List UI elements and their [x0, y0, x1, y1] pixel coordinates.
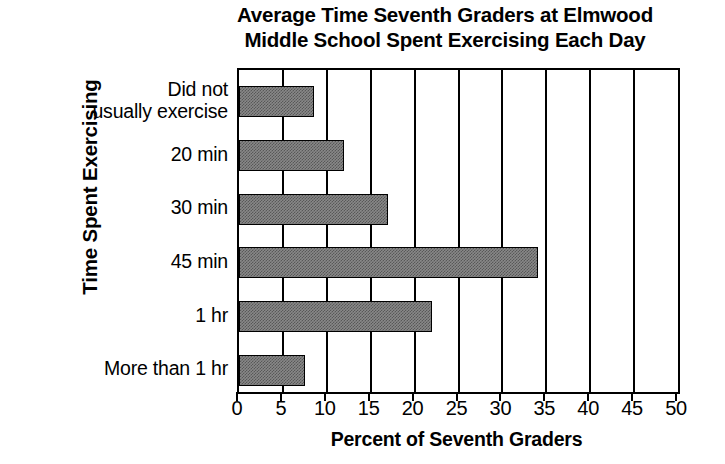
gridline: [414, 70, 416, 392]
bar: [239, 301, 432, 332]
gridline: [633, 70, 635, 392]
bar: [239, 247, 538, 278]
y-axis-tick-label-line: 30 min: [53, 196, 228, 218]
x-axis-title: Percent of Seventh Graders: [237, 428, 676, 451]
bar: [239, 355, 305, 386]
y-axis-tick-label-line: 20 min: [53, 143, 228, 165]
x-axis-tick-label: 40: [563, 397, 613, 420]
gridline: [589, 70, 591, 392]
gridline: [501, 70, 503, 392]
x-axis-tick-label: 0: [212, 397, 262, 420]
y-axis-tick-label: 20 min: [53, 143, 228, 165]
y-axis-tick-label-line: 1 hr: [53, 304, 228, 326]
y-axis-tick-label: Did notusually exercise: [53, 78, 228, 122]
bar: [239, 140, 344, 171]
gridline: [545, 70, 547, 392]
gridline: [326, 70, 328, 392]
y-axis-tick-label: 1 hr: [53, 304, 228, 326]
x-axis-tick-label: 30: [475, 397, 525, 420]
x-axis-tick-labels: 05101520253035404550: [237, 397, 676, 423]
x-axis-tick-label: 15: [344, 397, 394, 420]
y-axis-tick-label: More than 1 hr: [53, 357, 228, 379]
gridline: [458, 70, 460, 392]
gridline: [282, 70, 284, 392]
chart-title-line-2: Middle School Spent Exercising Each Day: [170, 27, 720, 52]
x-axis-tick-label: 35: [519, 397, 569, 420]
y-axis-tick-labels: Did notusually exercise20 min30 min45 mi…: [55, 68, 232, 390]
x-axis-tick-label: 20: [388, 397, 438, 420]
y-axis-tick-label: 30 min: [53, 196, 228, 218]
y-axis-tick-label: 45 min: [53, 250, 228, 272]
y-axis-tick-label-line: 45 min: [53, 250, 228, 272]
gridline: [370, 70, 372, 392]
bar: [239, 194, 388, 225]
chart-title: Average Time Seventh Graders at Elmwood …: [170, 2, 720, 52]
y-axis-tick-label-line: Did not: [53, 78, 228, 100]
y-axis-tick-label-line: More than 1 hr: [53, 357, 228, 379]
x-axis-tick-label: 45: [607, 397, 657, 420]
x-axis-tick-label: 5: [256, 397, 306, 420]
x-axis-tick-label: 25: [432, 397, 482, 420]
plot-area: [237, 68, 680, 394]
x-axis-tick-label: 10: [300, 397, 350, 420]
chart-title-line-1: Average Time Seventh Graders at Elmwood: [170, 2, 720, 27]
bar-chart-figure: Average Time Seventh Graders at Elmwood …: [0, 0, 725, 464]
x-axis-tick-label: 50: [651, 397, 701, 420]
bar: [239, 86, 314, 117]
y-axis-tick-label-line: usually exercise: [53, 100, 228, 122]
